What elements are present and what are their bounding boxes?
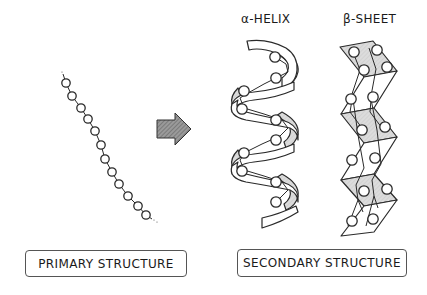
secondary-structure-label: SECONDARY STRUCTURE — [237, 249, 407, 277]
beta-sheet-pleats — [340, 41, 397, 236]
alpha-helix-ribbon — [231, 40, 298, 228]
primary-structure-text: PRIMARY STRUCTURE — [38, 257, 174, 271]
right-arrow-icon — [157, 113, 191, 145]
beta-sheet-heading: β-SHEET — [343, 12, 396, 26]
primary-structure-label: PRIMARY STRUCTURE — [25, 250, 187, 277]
primary-structure-chain — [61, 71, 157, 222]
alpha-helix-heading: α-HELIX — [241, 12, 290, 26]
secondary-structure-text: SECONDARY STRUCTURE — [243, 256, 401, 270]
